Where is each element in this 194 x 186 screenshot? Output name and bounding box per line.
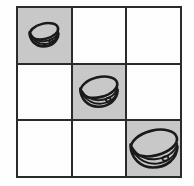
matrix-cell-r3c3[interactable] bbox=[127, 121, 180, 176]
bowl-medium bbox=[76, 74, 121, 109]
matrix-cell-r2c2[interactable] bbox=[73, 65, 126, 120]
bowl-icon bbox=[76, 74, 121, 109]
bowl-icon bbox=[127, 127, 180, 171]
bowl-small bbox=[27, 22, 62, 49]
figure-canvas bbox=[0, 0, 194, 186]
matrix-cell-r1c3[interactable] bbox=[127, 8, 180, 63]
matrix-cell-r2c3[interactable] bbox=[127, 65, 180, 120]
matrix-grid bbox=[16, 6, 182, 178]
matrix-cell-r1c1[interactable] bbox=[18, 8, 71, 63]
matrix-cell-r3c1[interactable] bbox=[18, 121, 71, 176]
bowl-icon bbox=[27, 22, 62, 49]
matrix-cell-r2c1[interactable] bbox=[18, 65, 71, 120]
matrix-cell-r1c2[interactable] bbox=[73, 8, 126, 63]
matrix-cell-r3c2[interactable] bbox=[73, 121, 126, 176]
bowl-large bbox=[127, 127, 180, 171]
